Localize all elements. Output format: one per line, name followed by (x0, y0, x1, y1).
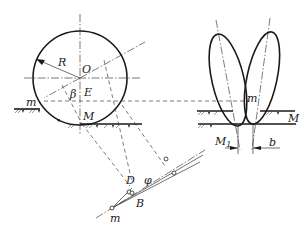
radius-arrowhead-icon (36, 59, 45, 65)
point-upper (164, 157, 168, 161)
point-m (110, 206, 114, 210)
dimension-arrow-right-icon (253, 146, 261, 150)
point-lower (172, 171, 176, 175)
ground-hatch-lower-right (198, 125, 204, 128)
label-M1: M1 (214, 135, 231, 149)
track-view: m M M1 b (197, 18, 300, 154)
label-b: b (269, 136, 276, 149)
label-phi: φ (144, 174, 152, 187)
construction-view: D B φ m (96, 150, 205, 225)
point-B (130, 191, 134, 195)
label-beta: β (69, 88, 76, 101)
label-O: O (82, 63, 91, 76)
ground-marker-icon (22, 110, 40, 113)
label-m-left: m (26, 96, 36, 109)
label-R: R (57, 56, 66, 69)
label-D: D (125, 174, 135, 187)
label-M-right: M (287, 112, 300, 125)
wheel-track-diagram: R O β E M m (0, 0, 305, 229)
label-m-right: m (247, 92, 257, 105)
label-m-bottom: m (110, 212, 120, 225)
projection-dash-4 (122, 105, 165, 166)
wheel-view: R O β E M m (14, 14, 250, 186)
right-petal-axis (252, 18, 270, 150)
label-B: B (135, 197, 144, 210)
ground-hatch-upper-left (15, 110, 35, 113)
projection-dash-3 (82, 124, 130, 186)
label-E: E (83, 86, 92, 99)
ground-marker-icon (210, 125, 212, 128)
label-M-circle: M (82, 110, 95, 123)
